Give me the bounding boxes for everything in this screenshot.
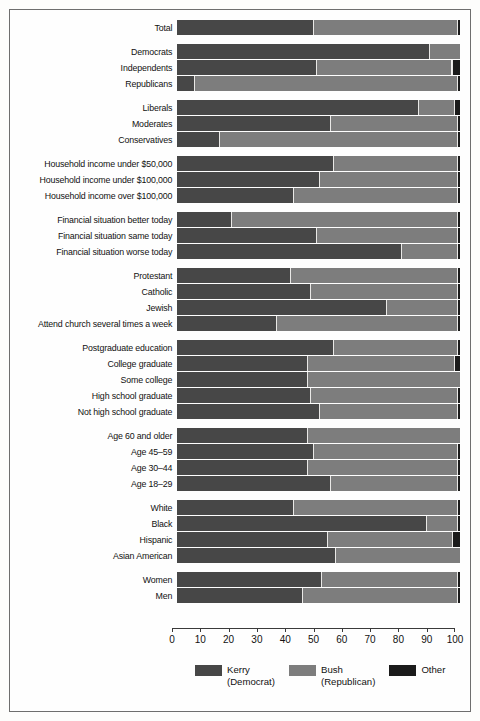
bar-segment-kerry bbox=[177, 244, 401, 259]
bar-track bbox=[177, 212, 460, 227]
bar-row: Conservatives bbox=[14, 132, 466, 147]
x-axis-tick bbox=[398, 628, 399, 632]
bar-row-label: Age 60 and older bbox=[24, 431, 177, 441]
x-axis-tick-label: 80 bbox=[393, 634, 404, 646]
bar-segment-bush bbox=[319, 404, 458, 419]
bar-row-label: Not high school graduate bbox=[24, 407, 177, 417]
legend-swatch bbox=[289, 665, 316, 676]
bar-group-party: DemocratsIndependentsRepublicans bbox=[14, 44, 466, 91]
x-axis-tick-label: 100 bbox=[447, 634, 464, 646]
bar-segment-bush bbox=[194, 76, 457, 91]
bar-track bbox=[177, 460, 460, 475]
bar-segment-bush bbox=[302, 588, 458, 603]
bar-track bbox=[177, 588, 460, 603]
bar-row-label: High school graduate bbox=[24, 391, 177, 401]
legend-sublabel: (Republican) bbox=[321, 676, 375, 688]
x-axis-tick-label: 50 bbox=[308, 634, 319, 646]
bar-segment-bush bbox=[276, 316, 457, 331]
bar-row: Republicans bbox=[14, 76, 466, 91]
bar-row-label: College graduate bbox=[24, 359, 177, 369]
bar-segment-kerry bbox=[177, 172, 319, 187]
bar-group-ideology: LiberalsModeratesConservatives bbox=[14, 100, 466, 147]
bar-segment-bush bbox=[333, 340, 458, 355]
x-axis-tick bbox=[285, 628, 286, 632]
bar-segment-kerry bbox=[177, 188, 293, 203]
bar-group-education: Postgraduate educationCollege graduateSo… bbox=[14, 340, 466, 419]
bar-segment-other bbox=[457, 444, 460, 459]
bar-track bbox=[177, 284, 460, 299]
bar-row: Total bbox=[14, 20, 466, 35]
bar-track bbox=[177, 340, 460, 355]
bar-group-age: Age 60 and olderAge 45–59Age 30–44Age 18… bbox=[14, 428, 466, 491]
bar-row: Democrats bbox=[14, 44, 466, 59]
bar-segment-kerry bbox=[177, 284, 310, 299]
bar-segment-other bbox=[457, 300, 460, 315]
x-axis-tick bbox=[200, 628, 201, 632]
bar-track bbox=[177, 132, 460, 147]
bar-row: Protestant bbox=[14, 268, 466, 283]
bar-track bbox=[177, 388, 460, 403]
bar-group-race: WhiteBlackHispanicAsian American bbox=[14, 500, 466, 563]
bar-row: Some college bbox=[14, 372, 466, 387]
bar-row-label: Conservatives bbox=[24, 135, 177, 145]
x-axis-tick bbox=[427, 628, 428, 632]
bar-segment-kerry bbox=[177, 76, 194, 91]
bar-group-religion: ProtestantCatholicJewishAttend church se… bbox=[14, 268, 466, 331]
bar-segment-bush bbox=[307, 372, 460, 387]
bar-segment-other bbox=[457, 388, 460, 403]
bar-row: High school graduate bbox=[14, 388, 466, 403]
bar-track bbox=[177, 372, 460, 387]
bar-row: Household income over $100,000 bbox=[14, 188, 466, 203]
bar-row-label: Men bbox=[24, 591, 177, 601]
bar-segment-bush bbox=[313, 20, 457, 35]
bar-row-label: Household income under $50,000 bbox=[24, 159, 177, 169]
legend-label: Other bbox=[421, 664, 445, 676]
bar-segment-bush bbox=[307, 428, 460, 443]
bar-segment-kerry bbox=[177, 572, 321, 587]
legend-swatch bbox=[195, 665, 222, 676]
bar-segment-other bbox=[457, 476, 460, 491]
bar-row: Asian American bbox=[14, 548, 466, 563]
x-axis-tick bbox=[229, 628, 230, 632]
bar-row: White bbox=[14, 500, 466, 515]
bar-segment-bush bbox=[330, 116, 457, 131]
bar-segment-kerry bbox=[177, 428, 307, 443]
bar-segment-bush bbox=[307, 356, 454, 371]
bar-segment-other bbox=[457, 340, 460, 355]
bar-segment-bush bbox=[293, 188, 457, 203]
bar-row-label: Age 45–59 bbox=[24, 447, 177, 457]
bar-segment-kerry bbox=[177, 212, 231, 227]
bar-row: Household income under $100,000 bbox=[14, 172, 466, 187]
bar-segment-bush bbox=[307, 460, 457, 475]
bar-row: Liberals bbox=[14, 100, 466, 115]
x-axis-tick-label: 60 bbox=[336, 634, 347, 646]
bar-row-label: Household income over $100,000 bbox=[24, 191, 177, 201]
bar-segment-bush bbox=[386, 300, 457, 315]
bar-segment-kerry bbox=[177, 116, 330, 131]
bar-segment-kerry bbox=[177, 372, 307, 387]
bar-track bbox=[177, 268, 460, 283]
x-axis: 0102030405060708090100 bbox=[172, 628, 455, 656]
bar-segment-kerry bbox=[177, 356, 307, 371]
bar-segment-bush bbox=[327, 532, 452, 547]
chart-legend: Kerry(Democrat)Bush(Republican)Other bbox=[195, 664, 460, 700]
bar-track bbox=[177, 404, 460, 419]
bar-row-label: Democrats bbox=[24, 47, 177, 57]
bar-segment-kerry bbox=[177, 44, 429, 59]
bar-segment-other bbox=[457, 76, 460, 91]
bar-segment-other bbox=[454, 100, 460, 115]
bar-segment-other bbox=[457, 172, 460, 187]
bar-row-label: Household income under $100,000 bbox=[24, 175, 177, 185]
bar-row-label: Liberals bbox=[24, 103, 177, 113]
bar-segment-kerry bbox=[177, 404, 319, 419]
bar-track bbox=[177, 300, 460, 315]
bar-segment-bush bbox=[316, 228, 458, 243]
bar-segment-kerry bbox=[177, 500, 293, 515]
bar-row: Age 18–29 bbox=[14, 476, 466, 491]
bar-row-label: Financial situation better today bbox=[24, 215, 177, 225]
bar-row-label: Independents bbox=[24, 63, 177, 73]
bar-track bbox=[177, 548, 460, 563]
x-axis-tick-label: 0 bbox=[169, 634, 175, 646]
bar-track bbox=[177, 156, 460, 171]
bar-segment-bush bbox=[401, 244, 458, 259]
